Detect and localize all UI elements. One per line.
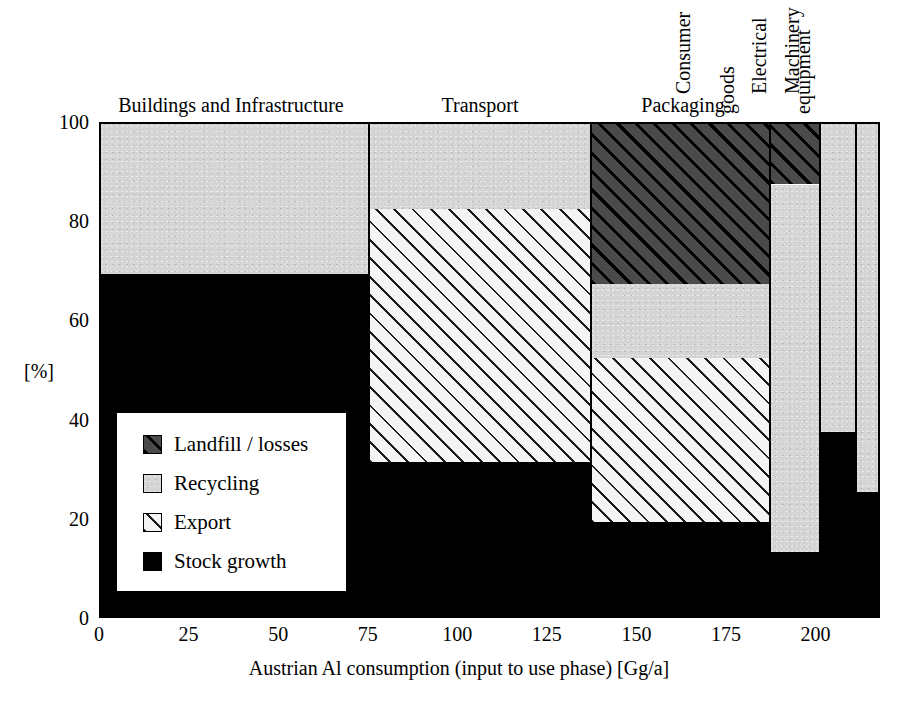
bar-band-stock (370, 462, 590, 616)
consumer-goods-line1: Consumer (672, 12, 694, 94)
y-tick-label: 40 (33, 410, 89, 430)
bar-band-export (370, 209, 590, 462)
legend-item: Landfill / losses (143, 425, 346, 464)
x-tick-label: 25 (154, 623, 224, 645)
bar-segment (821, 124, 857, 616)
legend-item: Recycling (143, 464, 346, 503)
bar-band-recycling (857, 122, 880, 492)
category-title-transport: Transport (441, 94, 518, 116)
x-tick-label: 150 (601, 623, 671, 645)
bar-segment (370, 124, 592, 616)
legend-label: Recycling (174, 473, 259, 494)
bar-segment (592, 124, 771, 616)
legend-swatch-landfill-icon (143, 435, 162, 454)
x-tick-label: 100 (422, 623, 492, 645)
x-tick-label: 0 (64, 623, 134, 645)
y-tick-label: 100 (33, 112, 89, 132)
legend-swatch-stock-icon (143, 552, 162, 571)
legend-swatch-export-icon (143, 513, 162, 532)
bar-band-landfill (592, 122, 769, 284)
x-tick-label: 75 (333, 623, 403, 645)
chart-legend: Landfill / lossesRecyclingExportStock gr… (116, 412, 347, 592)
y-tick-label: 80 (33, 211, 89, 231)
electrical-line1: Electrical (748, 17, 770, 94)
bar-band-stock (857, 492, 880, 616)
bar-band-stock (592, 522, 769, 616)
bar-band-export (592, 358, 769, 522)
y-axis-ticks: 020406080100 (0, 0, 89, 723)
x-tick-label: 125 (512, 623, 582, 645)
legend-swatch-recycling-icon (143, 474, 162, 493)
legend-label: Export (174, 512, 231, 533)
y-tick-label: 20 (33, 509, 89, 529)
bar-band-recycling (821, 122, 855, 432)
category-title-buildings: Buildings and Infrastructure (118, 94, 344, 116)
legend-label: Stock growth (174, 551, 287, 572)
chart-figure: [%] 020406080100 Buildings and Infrastru… (0, 0, 918, 723)
electrical-line2: equipment (792, 17, 814, 114)
bar-band-recycling (101, 122, 368, 274)
bar-segment (771, 124, 821, 616)
bar-band-stock (771, 552, 819, 616)
bar-band-recycling (771, 185, 819, 552)
legend-item: Export (143, 503, 346, 542)
bar-band-stock (821, 432, 855, 616)
x-tick-label: 50 (243, 623, 313, 645)
bar-band-landfill (771, 122, 819, 184)
bar-segment (857, 124, 880, 616)
legend-item: Stock growth (143, 542, 346, 581)
x-tick-label: 200 (781, 623, 851, 645)
y-tick-label: 60 (33, 310, 89, 330)
category-title-electrical-equipment: Electrical equipment (726, 17, 858, 114)
x-tick-label: 175 (691, 623, 761, 645)
bar-band-recycling (592, 284, 769, 358)
legend-label: Landfill / losses (174, 434, 308, 455)
x-axis-label: Austrian Al consumption (input to use ph… (0, 657, 918, 680)
bar-band-recycling (370, 122, 590, 209)
